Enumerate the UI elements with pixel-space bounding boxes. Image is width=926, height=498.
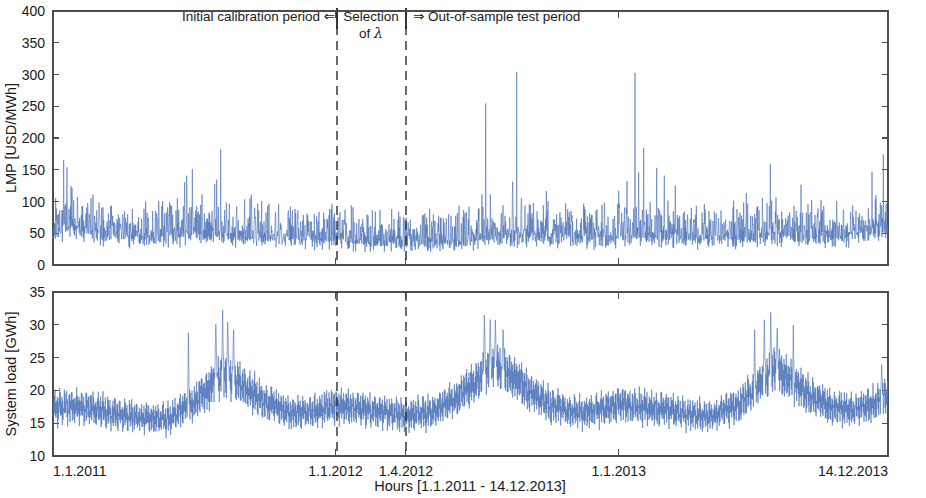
y-tick-label: 50 [29,225,45,241]
y-axis-title: LMP [USD/MWh] [3,83,19,193]
data-series-lmp [53,72,888,252]
chart-panel-system-load: 1015202530351.1.20111.1.20121.4.20121.1.… [3,284,888,479]
y-tick-label: 10 [29,448,45,464]
y-tick-label: 250 [22,98,46,114]
data-series-system-load [53,310,888,438]
x-tick-label: 1.4.2012 [379,463,434,479]
y-tick-label: 300 [22,67,46,83]
annotation-lambda-symbol: λ [373,25,383,41]
y-tick-label: 30 [29,317,45,333]
y-tick-label: 400 [22,3,46,19]
timeseries-figure: Initial calibration period ⇐ Selection o… [0,0,926,498]
y-tick-label: 100 [22,194,46,210]
y-tick-label: 15 [29,415,45,431]
annotation-of-text: of [359,26,374,41]
y-axis-title: System load [GWh] [3,312,19,437]
y-tick-label: 350 [22,35,46,51]
y-tick-label: 200 [22,130,46,146]
x-axis-title: Hours [1.1.2011 - 14.12.2013] [374,478,566,494]
chart-panel-lmp: 050100150200250300350400LMP [USD/MWh] [3,3,888,273]
x-tick-label: 14.12.2013 [818,463,888,479]
y-tick-label: 20 [29,382,45,398]
y-tick-label: 25 [29,350,45,366]
annotation-band: Initial calibration period ⇐ Selection o… [182,8,580,41]
y-tick-label: 150 [22,162,46,178]
x-tick-label: 1.1.2013 [591,463,646,479]
annotation-selection-line2: of λ [359,25,383,41]
y-tick-label: 0 [37,257,45,273]
x-tick-label: 1.1.2012 [308,463,363,479]
y-tick-label: 35 [29,284,45,300]
figure-container: Initial calibration period ⇐ Selection o… [0,0,926,498]
x-tick-label: 1.1.2011 [53,463,107,479]
